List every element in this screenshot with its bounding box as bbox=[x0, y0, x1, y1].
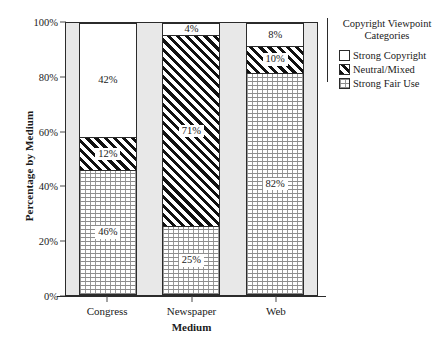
bar-segment-label: 10% bbox=[263, 53, 288, 66]
bars-container: 42%12%46%4%71%25%8%10%82% bbox=[66, 23, 317, 295]
y-tick-label: 0% bbox=[44, 291, 58, 302]
bar-segment-label: 71% bbox=[179, 125, 204, 138]
legend-item-label: Strong Fair Use bbox=[353, 79, 420, 90]
y-axis-ticks: 100%80%60%40%20%0% bbox=[0, 22, 66, 296]
bar-segment[interactable]: 46% bbox=[80, 170, 136, 294]
chart-figure: Percentage by Medium 100%80%60%40%20%0% … bbox=[0, 0, 440, 343]
bar-segment-label: 8% bbox=[265, 29, 285, 42]
legend-title-line-2: Categories bbox=[335, 30, 439, 42]
legend-item[interactable]: Strong Fair Use bbox=[339, 77, 439, 91]
x-axis-title: Medium bbox=[65, 321, 318, 333]
bar-segment[interactable]: 42% bbox=[80, 24, 136, 137]
legend-items: Strong CopyrightNeutral/MixedStrong Fair… bbox=[339, 49, 439, 91]
legend-swatch-icon bbox=[339, 50, 350, 61]
y-tick-label: 40% bbox=[39, 181, 58, 192]
y-tick-label: 100% bbox=[34, 17, 59, 28]
legend: Copyright Viewpoint Categories Strong Co… bbox=[327, 18, 439, 91]
y-tick-label: 60% bbox=[39, 126, 58, 137]
bar-segment[interactable]: 10% bbox=[247, 46, 303, 73]
bar-newspaper[interactable]: 4%71%25% bbox=[162, 23, 220, 295]
legend-divider bbox=[327, 18, 328, 82]
bar-segment-label: 12% bbox=[95, 148, 120, 161]
bar-segment-label: 25% bbox=[179, 254, 204, 267]
bar-segment[interactable]: 8% bbox=[247, 24, 303, 46]
bar-segment[interactable]: 12% bbox=[80, 137, 136, 169]
bar-web[interactable]: 8%10%82% bbox=[246, 23, 304, 295]
bar-segment-label: 42% bbox=[95, 74, 120, 87]
legend-swatch-icon bbox=[339, 64, 350, 75]
bar-segment[interactable]: 71% bbox=[163, 35, 219, 227]
x-tick-mark bbox=[107, 296, 108, 302]
y-tick-label: 80% bbox=[39, 71, 58, 82]
legend-title-line-1: Copyright Viewpoint bbox=[335, 18, 439, 30]
y-tick-label: 20% bbox=[39, 236, 58, 247]
x-tick-label: Web bbox=[266, 305, 286, 317]
x-tick-mark bbox=[275, 296, 276, 302]
legend-item[interactable]: Strong Copyright bbox=[339, 49, 439, 63]
bar-segment-label: 4% bbox=[181, 24, 201, 35]
x-tick-label: Congress bbox=[87, 305, 128, 317]
bar-segment[interactable]: 4% bbox=[163, 24, 219, 35]
bar-segment[interactable]: 25% bbox=[163, 226, 219, 294]
x-tick-mark bbox=[191, 296, 192, 302]
bar-segment-label: 46% bbox=[95, 226, 120, 239]
plot-area: 42%12%46%4%71%25%8%10%82% bbox=[65, 22, 318, 296]
legend-swatch-icon bbox=[339, 78, 350, 89]
bar-segment[interactable]: 82% bbox=[247, 73, 303, 294]
bar-congress[interactable]: 42%12%46% bbox=[79, 23, 137, 295]
legend-title: Copyright Viewpoint Categories bbox=[335, 18, 439, 43]
legend-item-label: Strong Copyright bbox=[353, 51, 426, 62]
legend-item-label: Neutral/Mixed bbox=[353, 65, 415, 76]
legend-item[interactable]: Neutral/Mixed bbox=[339, 63, 439, 77]
x-tick-label: Newspaper bbox=[167, 305, 216, 317]
bar-segment-label: 82% bbox=[263, 178, 288, 191]
